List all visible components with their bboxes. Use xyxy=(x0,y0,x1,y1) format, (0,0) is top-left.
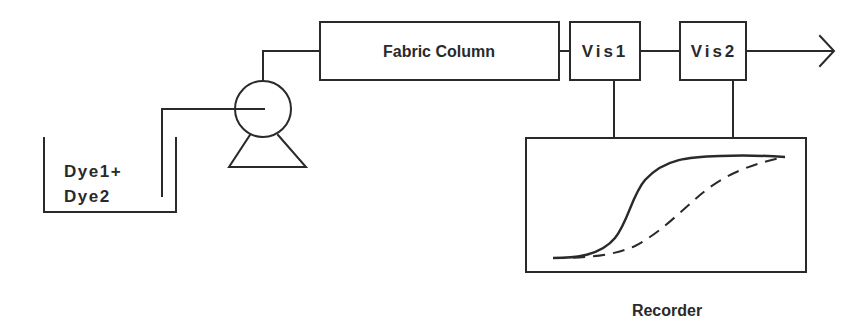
vis1-label: Vis1 xyxy=(582,42,629,61)
flow-diagram: Dye1+ Dye2 Fabric Column Vis1 Vis2 xyxy=(0,0,868,325)
reservoir-label-line2: Dye2 xyxy=(64,187,111,206)
reservoir-label-line1: Dye1+ xyxy=(64,162,122,181)
detector-vis2: Vis2 xyxy=(680,22,746,80)
recorder-box xyxy=(526,138,806,272)
pump-base-triangle xyxy=(229,135,306,167)
pump-outlet-tube xyxy=(263,51,320,81)
outlet-arrow-icon xyxy=(746,36,834,66)
detector-vis1: Vis1 xyxy=(570,22,640,80)
recorder: Recorder xyxy=(526,138,806,319)
recorder-label: Recorder xyxy=(632,302,702,319)
dye-reservoir: Dye1+ Dye2 xyxy=(44,138,176,212)
fabric-column: Fabric Column xyxy=(320,22,559,80)
fabric-column-label: Fabric Column xyxy=(383,43,495,60)
inlet-tube xyxy=(162,109,264,196)
vis2-label: Vis2 xyxy=(691,42,738,61)
pump-icon xyxy=(229,81,306,167)
